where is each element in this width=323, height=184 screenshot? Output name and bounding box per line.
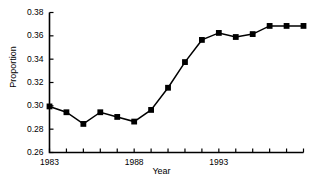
data-point-marker xyxy=(64,109,70,115)
axes xyxy=(50,13,304,153)
x-tick-label: 1988 xyxy=(114,157,154,167)
y-tick-label: 0.36 xyxy=(0,30,44,40)
data-point-marker xyxy=(131,119,137,125)
data-point-marker xyxy=(182,59,188,65)
data-point-marker xyxy=(80,121,86,127)
x-tick-label: 1993 xyxy=(199,157,239,167)
data-series xyxy=(47,23,307,127)
y-tick-label: 0.30 xyxy=(0,100,44,110)
data-point-marker xyxy=(301,23,307,29)
data-point-marker xyxy=(97,109,103,115)
data-point-marker xyxy=(216,30,222,36)
data-point-marker xyxy=(267,23,273,29)
data-point-marker xyxy=(233,34,239,40)
x-tick-label: 1983 xyxy=(30,157,70,167)
y-tick-label: 0.26 xyxy=(0,147,44,157)
y-tick-label: 0.32 xyxy=(0,77,44,87)
data-point-marker xyxy=(199,37,205,43)
data-point-marker xyxy=(47,104,53,110)
y-tick-label: 0.38 xyxy=(0,7,44,17)
y-tick-label: 0.34 xyxy=(0,54,44,64)
data-point-marker xyxy=(165,85,171,91)
axis-spines xyxy=(50,13,304,153)
chart-figure: Proportion Year 0.260.280.300.320.340.36… xyxy=(0,0,323,184)
data-point-marker xyxy=(114,114,120,120)
y-tick-label: 0.28 xyxy=(0,124,44,134)
series-line-proportion xyxy=(50,26,304,124)
data-point-marker xyxy=(148,107,154,113)
data-point-marker xyxy=(250,31,256,37)
data-point-marker xyxy=(284,23,290,29)
